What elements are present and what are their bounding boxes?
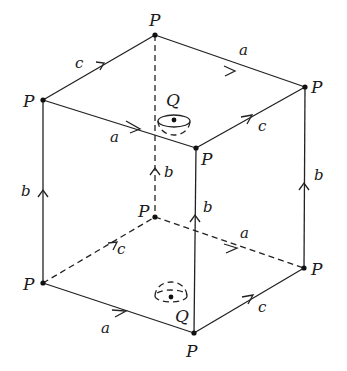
label-edge-bot-back-right: a (240, 224, 249, 242)
vertex-top-right (302, 84, 307, 89)
label-edge-top-left-back: c (75, 54, 84, 72)
label-vertex-bottom-front: P (185, 341, 198, 361)
arrow-b-back (150, 168, 160, 175)
label-vertex-top-left: P (22, 91, 35, 111)
edge-top-left-back (43, 35, 155, 100)
label-vertex-bottom-back: P (137, 201, 150, 221)
label-edge-bot-left-front: a (101, 319, 110, 337)
label-vertex-top-back: P (148, 10, 161, 30)
vertex-top-front (193, 145, 198, 150)
edge-vert-front (194, 148, 196, 333)
vertex-top-back (152, 32, 157, 37)
label-q-top: Q (166, 90, 180, 110)
cube-diagram: P P P P P P P P Q Q c a a c b b b b c a … (0, 0, 347, 371)
edge-bot-front-right (194, 268, 304, 333)
arrow-a-bot-back (224, 244, 237, 253)
q-bottom-hemisphere (155, 282, 187, 302)
label-edge-top-front-right: c (258, 117, 267, 135)
edge-vert-right (304, 87, 305, 268)
label-edge-top-left-front: a (110, 128, 119, 146)
vertex-bottom-left (40, 280, 45, 285)
label-vertex-top-right: P (310, 77, 323, 97)
label-edge-vert-front: b (203, 198, 213, 216)
label-vertex-bottom-right: P (310, 259, 323, 279)
label-q-bottom: Q (175, 306, 189, 326)
label-edge-vert-left: b (21, 182, 31, 200)
vertex-bottom-right (301, 265, 306, 270)
edge-top-back-right (155, 35, 305, 87)
label-edge-bot-left-back: c (117, 240, 126, 258)
label-edge-top-back-right: a (239, 41, 248, 59)
arrow-a-top-right (224, 66, 235, 76)
arrow-c-bot-back (108, 242, 117, 250)
label-edge-vert-right: b (314, 166, 324, 184)
label-edge-bot-front-right: c (258, 298, 267, 316)
vertex-top-left (40, 97, 45, 102)
label-vertex-top-front: P (200, 149, 213, 169)
label-vertex-bottom-left: P (22, 274, 35, 294)
vertex-bottom-front (191, 330, 196, 335)
edge-bot-left-back (43, 217, 155, 283)
q-top-hemisphere (158, 115, 190, 135)
edge-bot-back-right (155, 217, 304, 268)
vertex-bottom-back (152, 214, 157, 219)
label-edge-vert-back: b (164, 163, 174, 181)
arrow-a-bot-front (112, 310, 126, 317)
